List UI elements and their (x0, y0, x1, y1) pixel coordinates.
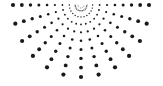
halftone-dot (138, 3, 142, 7)
halftone-dot (123, 30, 126, 33)
halftone-dot (31, 54, 35, 58)
halftone-dot (54, 4, 56, 6)
halftone-dot (97, 72, 101, 76)
halftone-dot (127, 54, 131, 58)
halftone-dot (93, 18, 95, 20)
halftone-dot (36, 30, 39, 33)
halftone-dot (109, 22, 112, 25)
halftone-dot (109, 35, 112, 38)
halftone-dot (105, 50, 108, 53)
dot-ray (31, 9, 77, 58)
halftone-dot (92, 55, 95, 58)
halftone-dot (37, 47, 41, 51)
halftone-dot (79, 75, 83, 79)
halftone-dot (116, 26, 119, 29)
halftone-dot (61, 72, 65, 76)
halftone-dot (66, 55, 69, 58)
halftone-dot (79, 57, 82, 60)
halftone-dot (122, 4, 125, 7)
halftone-dot (55, 11, 57, 13)
halftone-dot (112, 13, 115, 16)
dot-ray (87, 3, 152, 7)
halftone-dot (130, 3, 133, 6)
halftone-dot (80, 48, 83, 51)
halftone-dot (70, 10, 71, 11)
halftone-dot (69, 4, 70, 5)
halftone-dot (96, 14, 98, 16)
halftone-dot (109, 57, 113, 61)
halftone-dot (69, 46, 72, 49)
halftone-dot (62, 4, 64, 6)
halftone-dot (88, 38, 91, 41)
halftone-dot (99, 4, 101, 6)
halftone-dot (93, 28, 95, 30)
halftone-dot (57, 18, 59, 20)
halftone-dot (47, 13, 50, 16)
halftone-dot (62, 9, 64, 11)
halftone-dot (138, 39, 142, 43)
halftone-dot (58, 42, 61, 45)
halftone-dot (98, 9, 100, 11)
halftone-dot (46, 4, 49, 7)
halftone-dot (67, 28, 69, 30)
halftone-dot (64, 64, 68, 68)
halftone-dot (92, 7, 93, 8)
dot-ray (86, 8, 142, 44)
halftone-dot (98, 23, 100, 25)
halftone-dot (147, 3, 151, 7)
halftone-dot (13, 22, 17, 26)
halftone-dot (94, 64, 98, 68)
dot-ray (79, 11, 83, 80)
dot-ray (86, 6, 148, 26)
halftone-dot (102, 18, 104, 20)
halftone-dot (74, 15, 75, 16)
halftone-dot (128, 17, 131, 20)
halftone-dot (80, 39, 83, 42)
halftone-dot (56, 29, 59, 32)
halftone-dot (97, 35, 100, 38)
halftone-dot (50, 35, 53, 38)
radial-dot-sunburst-graphic (0, 0, 163, 86)
halftone-dot (86, 8, 87, 9)
halftone-dot (77, 16, 78, 17)
halftone-dot (83, 16, 84, 17)
halftone-dot (43, 26, 46, 29)
halftone-dot (75, 23, 77, 25)
halftone-dot (101, 42, 104, 45)
halftone-dot (79, 10, 80, 11)
dot-ray (13, 6, 75, 26)
halftone-dot (130, 34, 134, 38)
halftone-dot (145, 22, 149, 26)
halftone-dot (20, 39, 24, 43)
halftone-dot (81, 11, 82, 12)
halftone-dot (11, 3, 15, 7)
halftone-dot (50, 22, 53, 25)
halftone-dot (104, 29, 107, 32)
halftone-dot (22, 19, 26, 23)
halftone-dot (30, 17, 33, 20)
dot-ray (11, 3, 76, 7)
halftone-dot (29, 3, 32, 6)
halftone-dot (69, 7, 70, 8)
halftone-dot (37, 4, 40, 7)
halftone-dot (115, 41, 118, 44)
halftone-dot (121, 47, 125, 51)
dot-ray (82, 10, 101, 76)
dot-ray (20, 8, 76, 44)
halftone-dot (71, 38, 74, 41)
halftone-dot (67, 18, 69, 20)
dot-ray (85, 9, 131, 58)
halftone-dot (136, 19, 140, 23)
halftone-dot (54, 50, 57, 53)
halftone-dot (92, 4, 93, 5)
halftone-dot (85, 23, 87, 25)
halftone-dot (80, 16, 81, 17)
center-arc (78, 5, 84, 8)
halftone-dot (114, 4, 117, 7)
halftone-dot (45, 65, 49, 69)
halftone-dot (89, 13, 90, 14)
dot-ray (61, 10, 80, 76)
halftone-dot (75, 8, 76, 9)
halftone-dot (73, 30, 75, 32)
halftone-dot (64, 14, 66, 16)
